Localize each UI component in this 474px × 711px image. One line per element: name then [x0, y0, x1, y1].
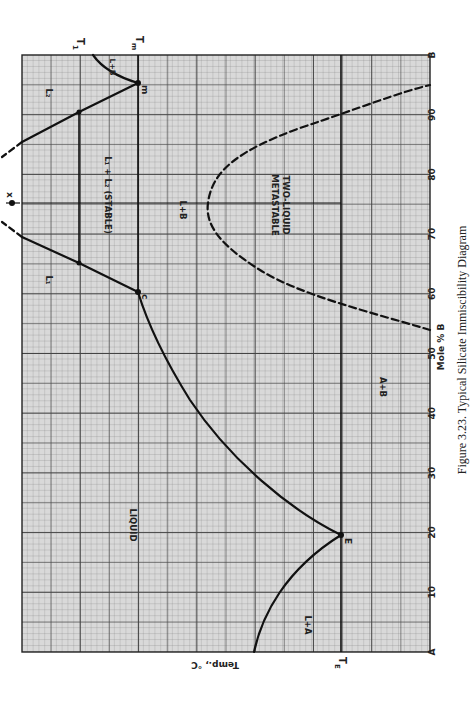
point-t1-l2 [77, 110, 82, 115]
x-tick-B: B [427, 51, 437, 58]
x-tick-60: 60 [427, 288, 437, 301]
label-x: x [5, 192, 15, 198]
region-liquid: LIQUID [128, 509, 138, 542]
label-e: E [343, 538, 353, 544]
region-stable-two-liquid: L₁ + L₂ (STABLE) [103, 156, 113, 234]
figure-caption: Figure 3.23. Typical Silicate Immiscibil… [455, 225, 469, 474]
region-a-plus-b: A+B [378, 377, 388, 397]
region-l1: L₁ [44, 275, 54, 284]
point-t1-l1 [77, 261, 82, 266]
region-l-plus-b-top: L+B [108, 59, 117, 76]
phase-diagram: E c m x LIQUID L+A A+B L+B L+B L₁ + L₂ (… [0, 0, 474, 711]
t1-marker: T 1 [71, 38, 86, 50]
te-marker: T E [333, 657, 348, 669]
label-m: m [140, 85, 150, 94]
svg-text:T: T [134, 36, 145, 43]
label-c: c [140, 294, 150, 299]
region-metastable-1: METASTABLE [270, 174, 280, 236]
x-axis-label: Mole % B [436, 324, 446, 371]
x-tick-A: A [427, 648, 437, 655]
x-tick-20: 20 [427, 526, 437, 539]
svg-text:m: m [130, 43, 138, 50]
x-tick-80: 80 [427, 168, 437, 181]
x-tick-70: 70 [427, 228, 437, 241]
tm-marker: T m [130, 36, 145, 50]
svg-text:T: T [75, 38, 86, 45]
y-axis-label: Temp., °C [191, 660, 239, 670]
x-tick-10: 10 [427, 586, 437, 599]
region-l-plus-a: L+A [303, 615, 313, 635]
binodal-dashed-extension [2, 142, 22, 237]
svg-text:T: T [337, 657, 348, 664]
graph-paper-grid [22, 55, 430, 652]
region-metastable-2: TWO-LIQUID [281, 175, 291, 234]
svg-text:1: 1 [71, 45, 79, 50]
region-l-plus-b: L+B [178, 200, 188, 219]
svg-text:E: E [333, 664, 341, 669]
x-tick-90: 90 [427, 108, 437, 121]
region-l2: L₂ [44, 88, 54, 97]
x-tick-40: 40 [427, 407, 437, 420]
x-tick-30: 30 [427, 467, 437, 480]
